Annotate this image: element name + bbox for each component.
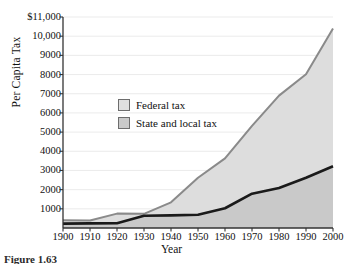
legend-item: State and local tax [118, 117, 217, 129]
legend-swatch-icon [118, 117, 130, 129]
legend-swatch-icon [118, 99, 130, 111]
legend-label: State and local tax [136, 117, 217, 129]
legend-label: Federal tax [136, 99, 185, 111]
x-axis-tick-label: 2000 [316, 231, 348, 242]
legend-item: Federal tax [118, 99, 185, 111]
figure-caption: Figure 1.63 [4, 253, 57, 264]
